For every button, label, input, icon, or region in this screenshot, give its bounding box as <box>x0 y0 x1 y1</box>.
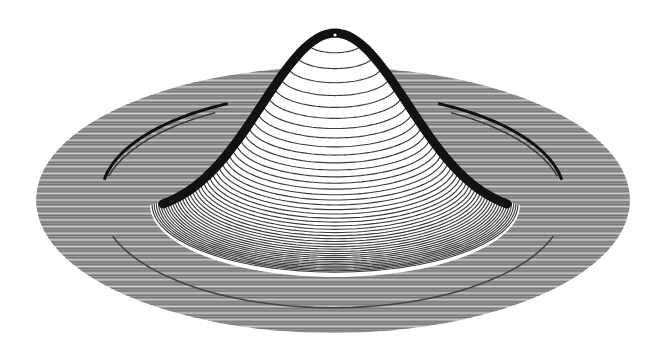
surface-plot-canvas <box>0 0 665 348</box>
apex-highlight <box>333 33 336 36</box>
surface-plot <box>0 0 665 348</box>
